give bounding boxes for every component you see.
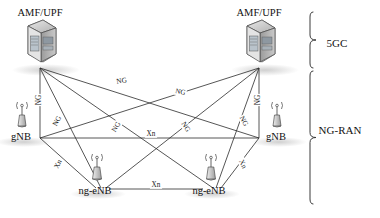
base-station-icon xyxy=(272,102,283,127)
ng-enb-left-node[interactable]: ng-eNB xyxy=(78,154,111,196)
gnb-right-label: gNB xyxy=(266,131,286,142)
base-station-icon xyxy=(206,154,217,180)
amf-upf-right-node[interactable]: AMF/UPF xyxy=(237,7,282,62)
ng-enb-right-label: ng-eNB xyxy=(192,185,225,196)
gnb-left-node[interactable]: gNB xyxy=(11,102,31,142)
group-braces: 5GC NG-RAN xyxy=(310,12,361,204)
server-icon xyxy=(28,20,56,62)
base-station-icon xyxy=(92,154,103,180)
interface-label-lbl-ng-1: NG xyxy=(116,76,128,86)
amf-upf-left-node[interactable]: AMF/UPF xyxy=(18,7,63,62)
interface-label-lbl-xn-1: Xn xyxy=(147,130,156,138)
shadow-amf-right xyxy=(231,64,299,76)
edge-ng-amfR-enbR xyxy=(216,68,259,188)
group-label-ng-ran: NG-RAN xyxy=(319,124,362,136)
edge-xn-gnbL-enbL xyxy=(40,138,96,188)
diagram-canvas: NGNGNGNGNGNGNGNGXnXnXnXn AMF/UPF xyxy=(0,0,380,218)
base-station-icon xyxy=(17,102,28,127)
group-label-5gc: 5GC xyxy=(327,37,348,49)
ng-enb-left-label: ng-eNB xyxy=(78,185,111,196)
interface-label-lbl-ng-8: NG xyxy=(254,95,262,105)
interface-label-lbl-xn-4: Xn xyxy=(152,181,161,189)
amf-upf-left-label: AMF/UPF xyxy=(18,7,63,18)
gnb-right-node[interactable]: gNB xyxy=(266,102,286,142)
edges-layer xyxy=(40,68,259,189)
gnb-left-label: gNB xyxy=(11,131,31,142)
server-icon xyxy=(247,20,275,62)
brace-ng-ran-icon xyxy=(310,71,316,204)
network-architecture-diagram: NGNGNGNGNGNGNGNGXnXnXnXn AMF/UPF xyxy=(0,0,380,218)
brace-5gc-icon xyxy=(310,12,316,68)
amf-upf-right-label: AMF/UPF xyxy=(237,7,282,18)
interface-label-lbl-ng-5: NG xyxy=(110,120,122,133)
interface-label-lbl-ng-2: NG xyxy=(175,87,187,97)
interface-label-lbl-ng-3: NG xyxy=(35,95,43,105)
